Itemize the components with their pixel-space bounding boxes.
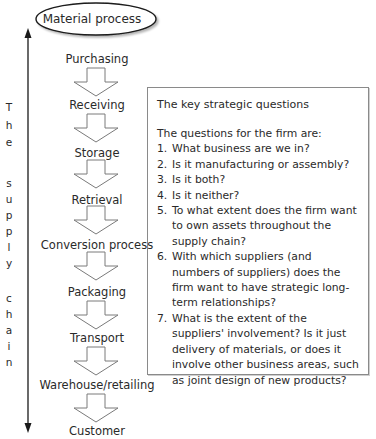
side-letter: u [4,193,14,205]
questions-heading: The key strategic questions [157,98,360,112]
side-letter: s [4,177,14,189]
side-letter: c [4,292,14,304]
side-letter: a [4,324,14,336]
down-arrow-icon [74,160,118,188]
question-item: 4.Is it neither? [157,188,360,203]
down-arrow-icon [74,394,118,422]
side-letter: h [4,119,14,131]
down-arrow-icon [74,347,118,375]
side-letter: i [4,340,14,352]
down-arrow-icon [74,68,118,96]
side-letter: p [4,225,14,237]
down-arrow-icon [74,252,118,280]
step-warehouse-retailing: Warehouse/retailing [17,378,177,392]
questions-list: 1.What business are we in? 2.Is it manuf… [157,141,360,388]
side-letter: y [4,257,14,269]
down-arrow-icon [74,206,118,234]
side-letter: e [4,136,14,148]
down-arrow-icon [74,114,118,142]
step-purchasing: Purchasing [17,52,177,66]
question-item: 6.With which suppliers (and numbers of s… [157,249,360,311]
arrow-up-icon [25,28,32,38]
side-letter: h [4,308,14,320]
side-letter: T [4,101,14,113]
side-letter: n [4,356,14,368]
step-customer: Customer [17,424,177,438]
question-item: 5.To what extent does the firm want to o… [157,203,360,249]
side-letter: p [4,209,14,221]
question-item: 2.Is it manufacturing or assembly? [157,157,360,172]
material-process-title: Material process [24,12,160,26]
question-item: 7.What is the extent of the suppliers' i… [157,311,360,388]
supply-chain-axis [25,28,32,433]
key-strategic-questions-box: The key strategic questions The question… [147,87,369,375]
down-arrow-icon [74,301,118,329]
question-item: 3.Is it both? [157,172,360,187]
question-item: 1.What business are we in? [157,141,360,156]
questions-intro: The questions for the firm are: [157,126,360,141]
side-letter: l [4,241,14,253]
